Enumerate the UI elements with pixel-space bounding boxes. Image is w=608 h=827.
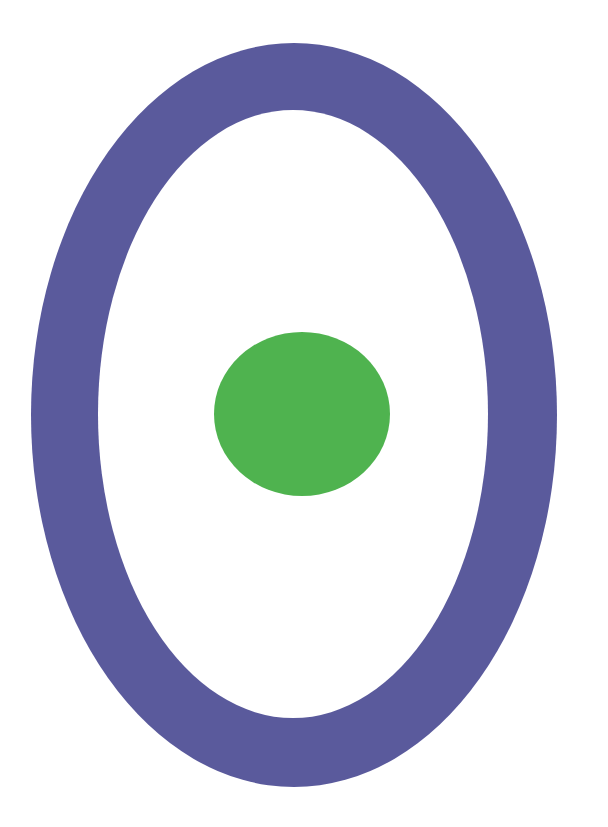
green-center-circle bbox=[214, 332, 390, 496]
shapes-svg bbox=[0, 0, 608, 827]
figure-canvas: Purple ring with green center Purple rin… bbox=[0, 0, 608, 827]
